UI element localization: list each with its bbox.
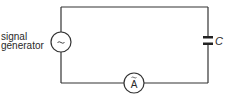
ammeter: A (124, 73, 144, 93)
ammeter-symbol: A (131, 79, 138, 90)
circuit-wires (61, 7, 208, 83)
signal-generator: signal generator (1, 31, 71, 52)
circuit-diagram: signal generator A C (0, 0, 235, 101)
capacitor-plate-bottom (203, 43, 213, 46)
signal-generator-label-line2: generator (1, 40, 44, 51)
capacitor-plate-top (203, 36, 213, 39)
capacitor-label: C (215, 35, 223, 47)
capacitor: C (203, 35, 223, 47)
